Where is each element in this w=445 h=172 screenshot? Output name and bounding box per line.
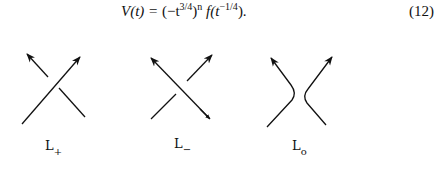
crossing-l-plus-icon: [22, 54, 85, 124]
eq-lhs: V(t) =: [121, 3, 158, 19]
skein-diagrams: [0, 40, 445, 140]
eq-rhs-close: ).: [238, 3, 247, 19]
label-l-minus-sub: −: [183, 144, 191, 155]
eq-exp-neg-1-4: −1/4: [219, 1, 237, 12]
equation-number: (12): [409, 3, 434, 20]
label-l-zero-sub: o: [301, 146, 307, 157]
label-l-zero: Lo: [292, 138, 307, 153]
label-l-minus-base: L: [174, 136, 183, 151]
label-l-plus: L+: [45, 138, 62, 153]
eq-rhs-open: (−t: [162, 3, 180, 19]
crossing-l-minus-icon: [151, 55, 212, 119]
label-l-zero-base: L: [292, 138, 301, 153]
eq-rhs-f: f(t: [202, 3, 219, 19]
eq-exp-3-4: 3/4: [180, 1, 193, 12]
label-l-minus: L−: [174, 136, 191, 151]
label-l-plus-base: L: [45, 138, 54, 153]
label-l-plus-sub: +: [54, 146, 62, 157]
smoothing-l-zero-icon: [267, 57, 332, 127]
equation-12: V(t) = (−t3/4)n f(t−1/4).: [121, 3, 247, 20]
